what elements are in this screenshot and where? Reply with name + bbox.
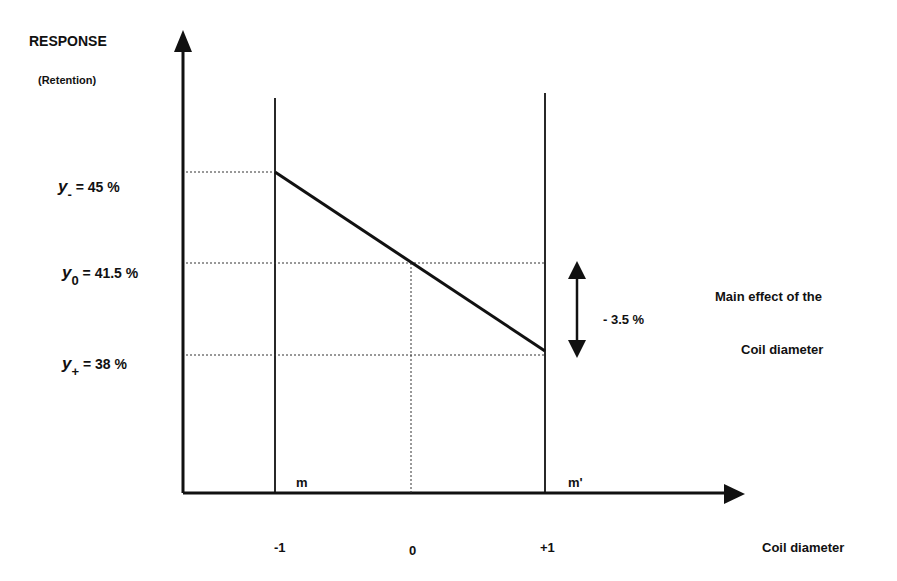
tick-label-zero: 0: [409, 543, 416, 558]
y-value: = 41.5 %: [83, 265, 139, 281]
y-subscript: -: [67, 187, 71, 202]
arrow-down-icon: [568, 340, 586, 358]
tick-label-plus-one: +1: [540, 540, 555, 555]
label-y-minus: y- = 45 %: [58, 177, 120, 202]
label-y-zero: y0 = 41.5 %: [62, 263, 138, 288]
effect-line: [275, 172, 545, 351]
tick-label-minus-one: -1: [274, 540, 286, 555]
y-value: = 45 %: [76, 179, 120, 195]
label-y-plus: y+ = 38 %: [62, 354, 127, 379]
y-subscript: 0: [71, 273, 78, 288]
effect-value: - 3.5 %: [603, 312, 644, 327]
y-value: = 38 %: [83, 356, 127, 372]
effect-title-line1: Main effect of the: [715, 289, 822, 304]
arrow-up-icon: [568, 261, 586, 279]
marker-m: m: [296, 475, 308, 490]
x-axis-arrow-icon: [724, 484, 745, 504]
effect-title-line2: Coil diameter: [741, 342, 823, 357]
y-axis-arrow-icon: [174, 30, 192, 52]
y-axis-subtitle: (Retention): [38, 74, 96, 86]
marker-m-prime: m': [568, 475, 583, 490]
y-axis-title: RESPONSE: [29, 33, 107, 49]
x-axis-title: Coil diameter: [762, 540, 844, 555]
y-subscript: +: [71, 364, 79, 379]
